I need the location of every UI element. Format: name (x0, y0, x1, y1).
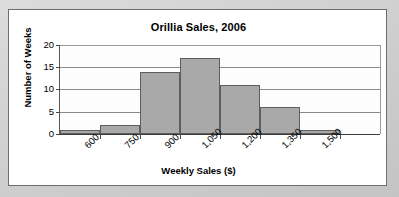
y-tick-mark-10 (56, 89, 60, 90)
bar-bin-3 (180, 58, 220, 134)
gridline-15 (60, 67, 380, 68)
gridline-20 (60, 45, 380, 46)
y-tick-mark-0 (56, 134, 60, 135)
y-tick-mark-5 (56, 112, 60, 113)
y-tick-mark-15 (56, 67, 60, 68)
x-axis-title: Weekly Sales ($) (9, 165, 388, 176)
x-tick-label-600: 600 (82, 131, 101, 150)
y-tick-mark-20 (56, 45, 60, 46)
x-tick-label-750: 750 (122, 131, 141, 150)
y-tick-label-5: 5 (32, 106, 54, 117)
bar-bin-2 (140, 72, 180, 134)
x-tick-label-900: 900 (162, 131, 181, 150)
chart-title: Orillia Sales, 2006 (9, 21, 388, 33)
y-axis-title: Number of Weeks (22, 20, 33, 116)
y-tick-label-0: 0 (32, 128, 54, 139)
plot-right-edge (380, 45, 381, 134)
y-tick-label-20: 20 (32, 39, 54, 50)
plot-area: 20 15 10 5 0 600 750 900 1,050 1,200 1,3… (59, 45, 380, 135)
y-tick-label-15: 15 (32, 61, 54, 72)
chart-card: Orillia Sales, 2006 Number of Weeks 20 1… (8, 9, 387, 186)
y-tick-label-10: 10 (32, 83, 54, 94)
